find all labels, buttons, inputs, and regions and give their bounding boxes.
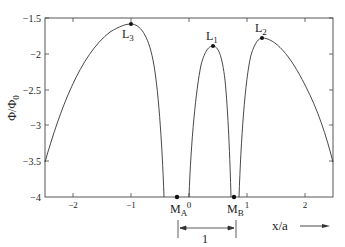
- L2-label: L2: [255, 21, 267, 37]
- x-tick-label: −2: [68, 200, 78, 210]
- x-ticks: [73, 18, 305, 197]
- L1-label: L1: [206, 29, 218, 45]
- y-tick-label: −2: [30, 49, 41, 60]
- y-tick-label: −3: [30, 120, 41, 131]
- plot-frame: [45, 18, 333, 197]
- right-branch-curve: [239, 38, 333, 197]
- x-tick-labels: −2 −1 0 1 2: [68, 200, 307, 210]
- dimension-label: 1: [202, 232, 208, 246]
- y-tick-label: −3.5: [23, 156, 41, 167]
- x-axis-arrow: [300, 224, 330, 228]
- x-tick-label: 0: [187, 200, 192, 210]
- MB-point: [232, 195, 236, 199]
- left-branch-curve: [45, 24, 164, 197]
- MA-point: [175, 195, 179, 199]
- MB-label: MB: [227, 202, 244, 218]
- y-ticks: [45, 18, 333, 161]
- y-tick-labels: −1.5 −2 −2.5 −3 −3.5 −4: [23, 13, 41, 203]
- y-tick-label: −1.5: [23, 13, 41, 24]
- curves: [45, 24, 333, 197]
- middle-branch-curve: [189, 46, 231, 197]
- MA-label: MA: [170, 202, 188, 218]
- y-tick-label: −2.5: [23, 85, 41, 96]
- L3-point: [129, 22, 133, 26]
- x-tick-label: 2: [303, 200, 308, 210]
- y-axis-label: Φ/Φ0: [5, 95, 21, 121]
- x-axis-label: x/a: [272, 218, 288, 233]
- x-tick-label: −1: [126, 200, 136, 210]
- point-labels: L3 L1 L2 MA MB: [122, 21, 267, 218]
- y-tick-label: −4: [30, 192, 41, 203]
- L3-label: L3: [122, 27, 134, 43]
- x-tick-label: 1: [245, 200, 250, 210]
- chart: −1.5 −2 −2.5 −3 −3.5 −4 −2 −1 0 1 2 Φ/Φ0…: [0, 0, 345, 247]
